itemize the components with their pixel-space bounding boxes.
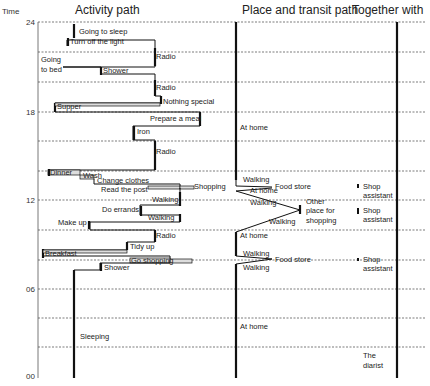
place-label: shopping bbox=[306, 216, 336, 225]
together-with-header: Together with bbox=[352, 3, 423, 17]
together-label: assistant bbox=[363, 215, 394, 224]
activity-label: Radio bbox=[156, 83, 176, 92]
place-label: Walking bbox=[250, 198, 276, 207]
activity-label: Change clothes bbox=[97, 176, 149, 185]
shop-assistant-marker-1 bbox=[357, 184, 359, 188]
activity-label: Breakfast bbox=[45, 249, 78, 258]
activity-label: Do errands bbox=[102, 205, 139, 214]
shop-assistant-marker-2 bbox=[357, 208, 359, 214]
activity-label: Go shopping bbox=[131, 256, 174, 265]
time-tick-label: 18 bbox=[26, 108, 35, 117]
time-tick-label: 00 bbox=[26, 372, 35, 381]
activity-label: Radio bbox=[156, 147, 176, 156]
activity-label: Shower bbox=[104, 263, 130, 272]
activity-label: Radio bbox=[156, 231, 176, 240]
time-geography-diagram: Time Activity path Place and transit pat… bbox=[0, 0, 430, 386]
activity-label: Shower bbox=[103, 66, 129, 75]
activity-label: Read the post bbox=[101, 185, 149, 194]
activity-label: Shopping bbox=[194, 182, 226, 191]
place-label: Walking bbox=[243, 175, 269, 184]
activity-label: Prepare a meal bbox=[150, 114, 202, 123]
activity-label: Sleeping bbox=[80, 332, 109, 341]
place-label: At home bbox=[250, 186, 278, 195]
together-label: assistant bbox=[363, 264, 394, 273]
activity-label: Walking bbox=[152, 195, 178, 204]
activity-label: Make up bbox=[58, 218, 87, 227]
activity-label: Tidy up bbox=[130, 242, 154, 251]
activity-path-header: Activity path bbox=[75, 3, 140, 17]
time-tick-label: 12 bbox=[26, 196, 35, 205]
together-label: Shop bbox=[363, 182, 381, 191]
place-label: place for bbox=[306, 206, 335, 215]
together-label: The bbox=[363, 351, 376, 360]
place-label: Food store bbox=[275, 182, 311, 191]
place-label: At home bbox=[240, 231, 268, 240]
place-label: Walking bbox=[269, 217, 295, 226]
together-label: Shop bbox=[363, 206, 381, 215]
place-label: Walking bbox=[243, 263, 269, 272]
activity-label: Radio bbox=[156, 52, 176, 61]
place-labels: At homeWalkingFood storeAt homeWalkingOt… bbox=[240, 123, 336, 331]
place-label: At home bbox=[240, 123, 268, 132]
together-label: Shop bbox=[363, 255, 381, 264]
activity-label: Dinner bbox=[50, 168, 73, 177]
time-axis-title: Time bbox=[2, 7, 20, 16]
place-label: At home bbox=[240, 322, 268, 331]
activity-label: Supper bbox=[57, 102, 82, 111]
place-path-header: Place and transit path bbox=[242, 3, 358, 17]
activity-label: Iron bbox=[137, 127, 150, 136]
activity-label: Nothing special bbox=[163, 97, 215, 106]
together-label: diarist bbox=[363, 361, 384, 370]
activity-label: to bed bbox=[41, 65, 62, 74]
time-tick-label: 24 bbox=[26, 18, 35, 27]
place-label: Other bbox=[306, 197, 325, 206]
activity-label: Walking bbox=[148, 213, 174, 222]
activity-label: Turn off the light bbox=[70, 37, 125, 46]
time-ticks: 2418120600 bbox=[26, 18, 35, 381]
shop-assistant-marker-3 bbox=[357, 258, 359, 261]
together-labels: ShopassistantShopassistantShopassistantT… bbox=[363, 182, 394, 370]
activity-label: Going bbox=[41, 55, 61, 64]
place-label: Walking bbox=[243, 249, 269, 258]
place-label: Food store bbox=[275, 255, 311, 264]
together-label: assistant bbox=[363, 191, 394, 200]
activity-label: Going to sleep bbox=[79, 27, 127, 36]
time-tick-label: 06 bbox=[26, 285, 35, 294]
